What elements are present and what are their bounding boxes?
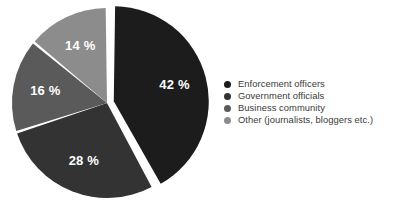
legend-swatch-icon xyxy=(224,117,231,124)
legend-item-other[interactable]: Other (journalists, bloggers etc.) xyxy=(224,114,407,126)
legend-item-label: Enforcement officers xyxy=(238,78,325,90)
legend-swatch-icon xyxy=(224,93,231,100)
pie-chart-figure: 42 % 28 % 16 % 14 % Enforcement officers… xyxy=(0,0,407,212)
pie-chart-graphic: 42 % 28 % 16 % 14 % xyxy=(0,0,215,212)
pie-label-other: 14 % xyxy=(65,38,96,53)
legend-item-label: Other (journalists, bloggers etc.) xyxy=(238,114,373,126)
legend-item-label: Business community xyxy=(238,102,325,114)
legend-item-label: Government officials xyxy=(238,90,324,102)
legend-swatch-icon xyxy=(224,81,231,88)
legend-item-enforcement-officers[interactable]: Enforcement officers xyxy=(224,78,407,90)
legend-item-government-officials[interactable]: Government officials xyxy=(224,90,407,102)
pie-slices xyxy=(12,6,209,198)
pie-label-business-community: 16 % xyxy=(30,83,61,98)
legend-item-business-community[interactable]: Business community xyxy=(224,102,407,114)
legend-swatch-icon xyxy=(224,105,231,112)
pie-label-enforcement-officers: 42 % xyxy=(159,77,190,92)
pie-label-government-officials: 28 % xyxy=(69,153,100,168)
chart-legend: Enforcement officers Government official… xyxy=(224,78,407,126)
